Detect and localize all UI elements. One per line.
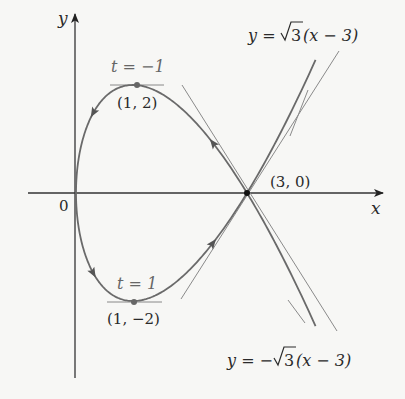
equation-negative-prefix: y = − — [226, 351, 273, 370]
direction-arrow-icon — [87, 267, 99, 280]
y-axis-label: y — [57, 8, 68, 28]
point-top — [134, 82, 140, 88]
tangent-lines — [181, 51, 339, 331]
equation-negative-radicand: 3 — [284, 351, 294, 370]
equation-negative-suffix: (x − 3) — [296, 351, 351, 370]
equation-negative: y = − 3 (x − 3) — [226, 347, 351, 370]
tangent-line-negative — [182, 85, 337, 331]
param-label-top: t = −1 — [111, 57, 165, 76]
coord-label-crossing: (3, 0) — [270, 173, 310, 191]
param-label-bottom: t = 1 — [117, 274, 157, 293]
origin-label: 0 — [59, 197, 69, 215]
equation-positive-prefix: y = — [247, 26, 276, 45]
coord-label-top: (1, 2) — [117, 94, 157, 112]
direction-arrow-icon — [87, 107, 99, 120]
equation-positive-suffix: (x − 3) — [303, 26, 358, 45]
equation-positive-radicand: 3 — [291, 26, 301, 45]
coord-label-bottom: (1, −2) — [107, 310, 160, 328]
parametric-curve-figure: y x 0 t = −1 (1, 2) t = 1 (1, −2) (3, 0)… — [0, 0, 405, 399]
point-crossing — [244, 190, 250, 196]
equation-positive: y = 3 (x − 3) — [247, 22, 358, 45]
x-axis-label: x — [371, 198, 381, 218]
point-bottom — [131, 299, 137, 305]
axes — [28, 14, 383, 378]
tangent-line-positive — [181, 51, 339, 299]
